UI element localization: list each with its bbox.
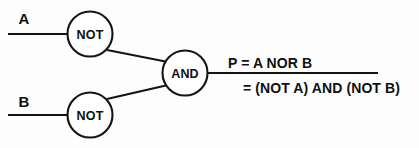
and-gate-label: AND [171,67,199,81]
output-expression-primary: P = A NOR B [228,55,312,71]
connector-not-b-to-and [107,85,168,99]
logic-diagram-canvas: NOT NOT AND A B P = A NOR B = (NOT A) AN… [0,0,419,148]
logic-diagram: NOT NOT AND A B P = A NOR B = (NOT A) AN… [0,0,419,148]
not-gate-a-label: NOT [77,28,104,42]
not-gate-b-label: NOT [77,109,104,123]
output-expression-secondary: = (NOT A) AND (NOT B) [243,80,400,96]
input-label-a: A [19,10,30,27]
input-label-b: B [19,93,30,110]
connector-not-a-to-and [107,50,168,62]
